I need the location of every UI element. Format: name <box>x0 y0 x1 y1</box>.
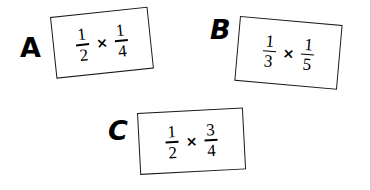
expression-box-c[interactable]: 1 2 × 3 4 <box>137 107 246 174</box>
option-letter-a: A <box>20 34 41 61</box>
expression-box-b[interactable]: 1 3 × 1 5 <box>234 16 342 90</box>
expression-box-a[interactable]: 1 2 × 1 4 <box>50 7 154 79</box>
multiplication-sign-a: × <box>95 35 108 50</box>
multiplication-sign-b: × <box>282 45 295 60</box>
expression-b: 1 3 × 1 5 <box>235 17 341 89</box>
fraction-b-right: 1 5 <box>300 35 316 73</box>
fraction-a-right-numerator: 1 <box>113 21 127 40</box>
fraction-b-right-numerator: 1 <box>302 35 316 54</box>
fraction-a-left-denominator: 2 <box>77 45 91 64</box>
fraction-c-right-denominator: 4 <box>205 141 218 160</box>
fraction-b-left-denominator: 3 <box>261 51 275 70</box>
fraction-c-left: 1 2 <box>165 123 180 161</box>
fraction-a-left-numerator: 1 <box>75 25 89 44</box>
fraction-c-left-numerator: 1 <box>165 123 178 142</box>
fraction-c-left-denominator: 2 <box>166 143 179 162</box>
expression-a: 1 2 × 1 4 <box>51 8 153 78</box>
multiplication-sign-c: × <box>185 134 197 149</box>
fraction-c-right: 3 4 <box>203 121 218 159</box>
option-letter-b: B <box>210 16 231 43</box>
fraction-a-right: 1 4 <box>113 21 130 60</box>
fraction-a-left: 1 2 <box>74 25 91 64</box>
fraction-b-left-numerator: 1 <box>263 32 277 51</box>
fraction-c-right-numerator: 3 <box>204 121 217 140</box>
fraction-b-left: 1 3 <box>261 32 277 70</box>
fraction-b-right-denominator: 5 <box>300 55 314 74</box>
worksheet-canvas: A 1 2 × 1 4 B 1 <box>0 0 371 190</box>
expression-c: 1 2 × 3 4 <box>138 109 245 174</box>
fraction-a-right-denominator: 4 <box>115 41 129 60</box>
option-letter-c: C <box>108 117 128 144</box>
